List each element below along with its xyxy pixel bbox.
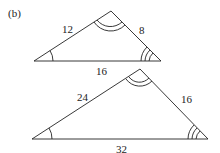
small-triangle	[34, 11, 161, 61]
angle-mark-triple	[188, 125, 194, 139]
figure-label: (b)	[8, 7, 21, 20]
side-label-small-right: 8	[139, 24, 145, 36]
angle-mark-triple	[141, 47, 147, 61]
similar-triangles-diagram: (b) 12 8 16 24 16 32	[0, 0, 220, 153]
side-label-large-left: 24	[77, 91, 89, 103]
angle-mark-single	[50, 51, 53, 61]
angle-mark-triple	[149, 53, 153, 61]
angle-mark-double	[129, 77, 149, 82]
side-label-large-right: 16	[181, 93, 193, 105]
side-label-small-base: 16	[96, 65, 108, 77]
side-label-small-left: 12	[62, 23, 73, 35]
small-triangle-outline	[34, 11, 161, 61]
angle-mark-single	[49, 128, 52, 139]
diagram-canvas: (b) 12 8 16 24 16 32	[0, 0, 220, 153]
angle-mark-triple	[196, 131, 200, 139]
angle-mark-double	[97, 20, 122, 27]
side-label-large-base: 32	[116, 143, 127, 153]
